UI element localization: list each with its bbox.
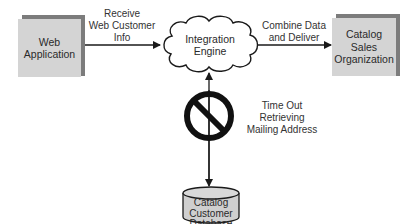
integration-engine-label: Integration Engine (170, 26, 250, 64)
catalog-sales-label: Catalog Sales Organization (332, 18, 396, 76)
catalog-db-label: Catalog Customer Database (183, 198, 239, 224)
receive-edge-label: Receive Web Customer Info (84, 8, 160, 44)
combine-edge-label: Combine Data and Deliver (256, 20, 332, 44)
timeout-edge-label: Time Out Retrieving Mailing Address (237, 100, 327, 136)
web-application-label: Web Application (18, 19, 81, 77)
